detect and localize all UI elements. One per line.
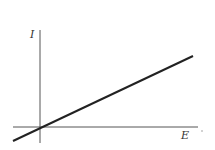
dot-mark [201, 130, 203, 132]
iv-diagram: I E [0, 0, 215, 150]
x-axis-label: E [180, 129, 189, 142]
y-axis-label: I [29, 28, 35, 41]
